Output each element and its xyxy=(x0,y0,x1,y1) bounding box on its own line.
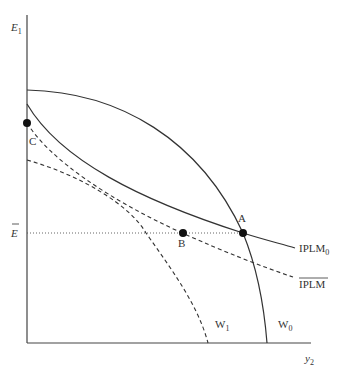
w1-curve xyxy=(27,160,208,343)
iplm0-curve xyxy=(27,104,295,248)
w0-label: W0 xyxy=(278,318,292,333)
point-c xyxy=(23,119,31,127)
iplm-bar-label: IPLM xyxy=(299,278,326,290)
x-axis-label: y2 xyxy=(304,352,314,367)
point-a-label: A xyxy=(238,212,246,224)
economic-diagram: E1 y2 E W0 IPLM0 IPLM W1 A B C xyxy=(0,0,344,375)
point-b xyxy=(179,229,187,237)
point-a xyxy=(239,229,247,237)
w0-curve xyxy=(27,90,267,343)
iplm0-label: IPLM0 xyxy=(299,242,329,257)
iplm-bar-curve xyxy=(27,123,293,277)
y-axis-label: E1 xyxy=(10,21,22,36)
e-bar-label: E xyxy=(10,227,18,239)
w1-label: W1 xyxy=(215,318,229,333)
point-c-label: C xyxy=(29,135,36,147)
point-b-label: B xyxy=(178,237,185,249)
